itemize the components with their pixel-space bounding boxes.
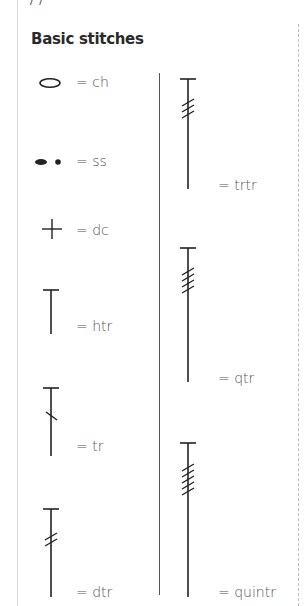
stitch-label-tr: = tr	[76, 438, 103, 454]
column-divider	[159, 73, 160, 595]
stitch-label-htr: = htr	[76, 318, 112, 334]
stitch-label-ch: = ch	[76, 74, 109, 90]
stitch-label-quintr: = quintr	[218, 584, 276, 600]
stitch-label-trtr: = trtr	[218, 177, 257, 193]
cut-off-header-text: / /	[30, 0, 44, 7]
stitch-label-ss: = ss	[76, 153, 107, 169]
stitch-label-qtr: = qtr	[218, 370, 254, 386]
oval-icon	[38, 77, 62, 89]
treble-icon	[42, 387, 60, 457]
plus-icon	[40, 218, 64, 240]
stitch-label-dtr: = dtr	[76, 584, 112, 600]
page-edge-left	[17, 0, 18, 606]
stitch-label-dc: = dc	[76, 222, 109, 238]
quadruple-treble-icon	[179, 247, 197, 383]
section-title: Basic stitches	[31, 30, 144, 48]
slip-stitch-dots-icon	[33, 157, 63, 167]
cut-line-right	[298, 24, 299, 606]
double-treble-icon	[42, 508, 60, 598]
half-treble-icon	[42, 289, 60, 335]
triple-treble-icon	[179, 78, 197, 190]
quintuple-treble-icon	[179, 442, 197, 598]
